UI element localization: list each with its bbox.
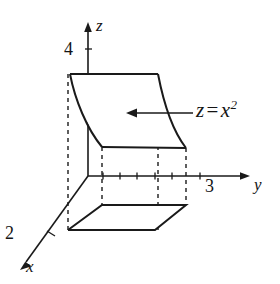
figure-canvas: z y x 4 3 2 z=x2 <box>0 0 280 284</box>
y-axis-arrowhead <box>240 172 250 180</box>
surface-equation-label: z=x2 <box>196 100 237 121</box>
equation-exponent: 2 <box>231 97 238 112</box>
x-axis-tick-label-2: 2 <box>5 224 14 242</box>
y-axis-label: y <box>254 176 262 193</box>
z-axis-label: z <box>96 17 103 34</box>
axis-group-y <box>88 172 250 180</box>
y-axis-tick-label-3: 3 <box>205 177 214 195</box>
figure-drawing <box>0 0 280 284</box>
surface-bottom-edge <box>102 147 186 148</box>
equation-base: x <box>221 98 231 122</box>
equation-operator: = <box>205 98 221 122</box>
x-axis-tick-2 <box>47 231 55 236</box>
z-axis-tick-label-4: 4 <box>64 40 73 58</box>
x-axis-label: x <box>26 258 34 275</box>
x-axis-line <box>26 176 88 262</box>
z-axis-arrowhead <box>84 22 92 32</box>
equation-lhs: z <box>196 98 205 122</box>
base-rectangle <box>68 205 186 230</box>
